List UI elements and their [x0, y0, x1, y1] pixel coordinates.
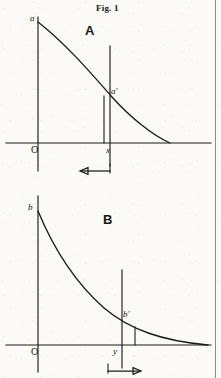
figure-drawing	[0, 0, 221, 378]
panel-b-origin-label: O	[31, 347, 38, 357]
panel-a-axis-point-label: x	[106, 146, 110, 155]
figure-page: Fig. 1 A a a′ O x B b b′ O y	[0, 0, 221, 378]
panel-a-label: A	[85, 24, 94, 37]
figure-title: Fig. 1	[96, 4, 119, 13]
panel-b-curve	[38, 211, 208, 345]
panel-b-axis-point-label: y	[113, 347, 117, 356]
panel-b-start-point-label: b	[28, 203, 33, 212]
panel-b-label: B	[103, 213, 112, 226]
panel-a-curve-point-label: a′	[111, 87, 117, 96]
panel-a-start-point-label: a	[30, 14, 35, 23]
panel-b-curve-point-label: b′	[123, 310, 129, 319]
panel-a-origin-label: O	[31, 145, 38, 155]
